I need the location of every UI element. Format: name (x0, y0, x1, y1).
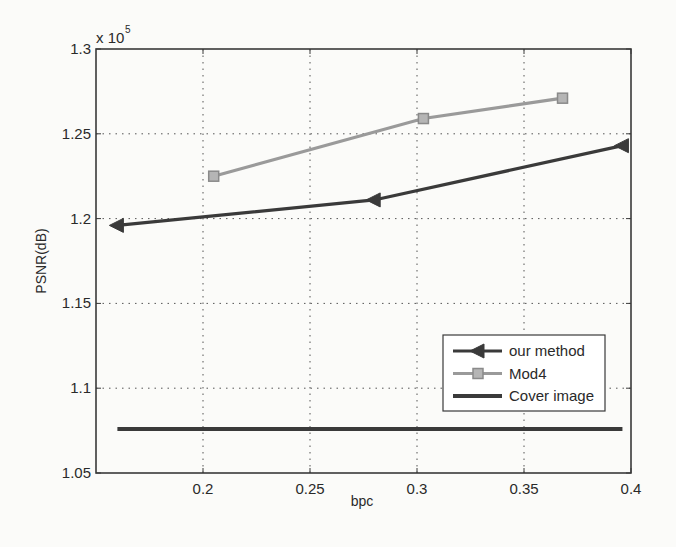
y-tick-label: 1.3 (70, 40, 91, 57)
y-tick-label: 1.25 (62, 125, 91, 142)
x-tick-label: 0.2 (193, 480, 214, 497)
y-multiplier-exponent: 5 (125, 24, 131, 35)
series-line (117, 146, 622, 226)
y-tick-label: 1.2 (70, 210, 91, 227)
y-tick-label: 1.1 (70, 379, 91, 396)
square-marker (473, 369, 483, 379)
y-axis-label: PSNR(dB) (33, 228, 49, 293)
legend-label: Cover image (509, 387, 594, 404)
x-tick-label: 0.3 (407, 480, 428, 497)
legend: our methodMod4Cover image (443, 335, 605, 411)
x-tick-label: 0.25 (295, 480, 324, 497)
square-marker (209, 171, 219, 181)
triangle-marker (366, 193, 380, 207)
x-tick-label: 0.4 (621, 480, 642, 497)
series-our-method (109, 139, 628, 233)
triangle-marker (109, 218, 123, 232)
x-axis-label: bpc (351, 493, 374, 509)
series-line (214, 98, 563, 176)
psnr-vs-bpc-chart: 0.20.250.30.350.41.051.11.151.21.251.3 x… (0, 0, 676, 547)
triangle-marker (614, 139, 628, 153)
legend-label: our method (509, 342, 585, 359)
square-marker (558, 93, 568, 103)
y-multiplier-label: x 10 (96, 29, 124, 46)
legend-label: Mod4 (509, 365, 547, 382)
y-tick-label: 1.15 (62, 294, 91, 311)
y-tick-label: 1.05 (62, 464, 91, 481)
square-marker (418, 114, 428, 124)
x-tick-label: 0.35 (509, 480, 538, 497)
